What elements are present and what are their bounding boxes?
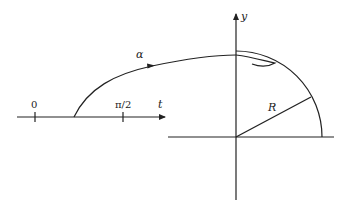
t-axis: 0 π/2 t [17, 98, 165, 122]
curve-alpha-label: α [136, 48, 144, 61]
tick-zero-label: 0 [31, 99, 37, 110]
inner-loop-curve [236, 55, 275, 66]
curve-alpha: α [74, 48, 236, 117]
y-axis-label: y [240, 10, 248, 23]
diagram-canvas: 0 π/2 t α y R [0, 0, 347, 217]
radius-label: R [267, 101, 276, 114]
quarter-circle-arc [236, 51, 322, 137]
t-axis-label: t [158, 98, 163, 111]
coordinate-plane: y R [168, 10, 334, 200]
tick-pi-over-2-label: π/2 [115, 99, 131, 110]
curve-alpha-path [74, 55, 236, 117]
